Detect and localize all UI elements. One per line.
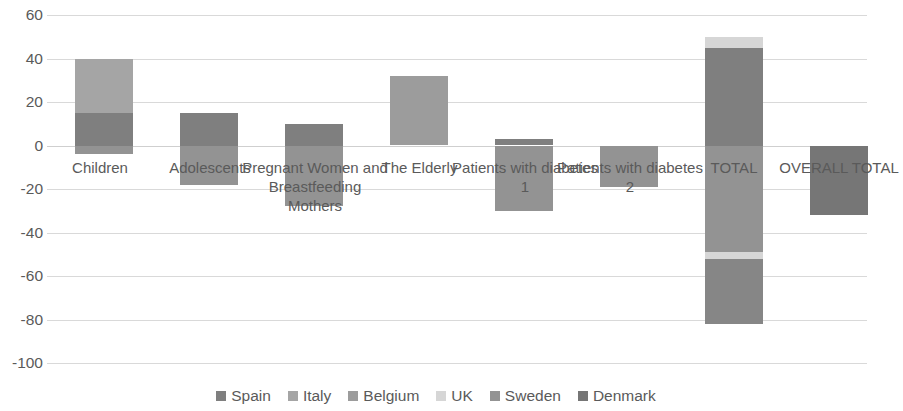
bar-segment-total-uk[interactable] [705, 37, 763, 48]
bar-segment-children-italy[interactable] [75, 59, 133, 113]
gridline-neg100 [47, 363, 867, 364]
bar-the-elderly[interactable] [390, 15, 448, 363]
y-axis-tick-label: -80 [3, 312, 43, 328]
legend-swatch-icon-italy [288, 391, 298, 401]
y-axis-tick-label: -100 [3, 355, 43, 371]
y-axis: 6040200-20-40-60-80-100 [0, 15, 43, 363]
y-axis-tick-label: 40 [3, 51, 43, 67]
bar-segment-pregnant-women-and-breastfeeding-mothers-spain[interactable] [285, 124, 343, 146]
y-axis-tick-label: -60 [3, 268, 43, 284]
legend-item-spain[interactable]: Spain [216, 388, 271, 404]
legend-swatch-icon-uk [436, 391, 446, 401]
legend-label: Spain [231, 388, 271, 404]
bar-segment-children-sweden[interactable] [75, 146, 133, 155]
bar-segment-adolescents-spain[interactable] [180, 113, 238, 146]
bar-segment-children-spain[interactable] [75, 113, 133, 146]
y-axis-tick-label: 20 [3, 94, 43, 110]
y-axis-tick-label: 0 [3, 138, 43, 154]
bar-segment-total-uk[interactable] [705, 252, 763, 259]
legend-item-italy[interactable]: Italy [288, 388, 331, 404]
legend-swatch-icon-spain [216, 391, 226, 401]
bar-children[interactable] [75, 15, 133, 363]
bar-segment-total-spain[interactable] [705, 48, 763, 146]
legend-item-uk[interactable]: UK [436, 388, 473, 404]
y-axis-tick-label: 60 [3, 7, 43, 23]
bar-segment-total-denmark[interactable] [705, 259, 763, 324]
y-axis-tick-label: -20 [3, 181, 43, 197]
bar-segment-patients-with-diabetes-1-spain[interactable] [495, 139, 553, 146]
legend-label: Belgium [363, 388, 419, 404]
chart-legend: SpainItalyBelgiumUKSwedenDenmark [0, 388, 872, 404]
legend-swatch-icon-belgium [348, 391, 358, 401]
legend-label: UK [451, 388, 473, 404]
bar-adolescents[interactable] [180, 15, 238, 363]
legend-label: Denmark [593, 388, 656, 404]
legend-swatch-icon-sweden [490, 391, 500, 401]
legend-item-belgium[interactable]: Belgium [348, 388, 419, 404]
bar-segment-the-elderly-belgium[interactable] [390, 76, 448, 146]
plot-area: ChildrenAdolescentsPregnant Women and Br… [47, 15, 867, 363]
legend-item-denmark[interactable]: Denmark [578, 388, 656, 404]
legend-swatch-icon-denmark [578, 391, 588, 401]
legend-label: Sweden [505, 388, 561, 404]
y-axis-tick-label: -40 [3, 225, 43, 241]
category-label-overall-total: OVERALL TOTAL [769, 158, 903, 177]
bar-overall-total[interactable] [810, 15, 868, 363]
legend-item-sweden[interactable]: Sweden [490, 388, 561, 404]
legend-label: Italy [303, 388, 331, 404]
category-label-children: Children [41, 158, 159, 177]
bar-total[interactable] [705, 15, 763, 363]
bar-segment-overall-total-denmark[interactable] [810, 146, 868, 216]
